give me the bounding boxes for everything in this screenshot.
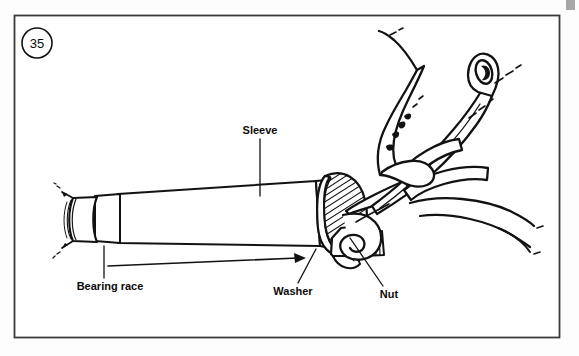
- shaft-left-segment: [95, 194, 120, 243]
- bearing-race-ring: [69, 197, 97, 242]
- technical-illustration-canvas: 35: [0, 0, 579, 356]
- bearing-race-label: Bearing race: [77, 280, 144, 292]
- washer-label: Washer: [273, 285, 313, 297]
- sleeve-label: Sleeve: [243, 124, 278, 136]
- scan-artifact: [566, 0, 575, 10]
- nut-label: Nut: [380, 288, 399, 300]
- break-dash-top-2: [54, 183, 56, 184]
- figure-number-label: 35: [30, 36, 44, 51]
- figure-illustration: 35: [0, 0, 579, 356]
- figure-number-badge: 35: [22, 28, 52, 58]
